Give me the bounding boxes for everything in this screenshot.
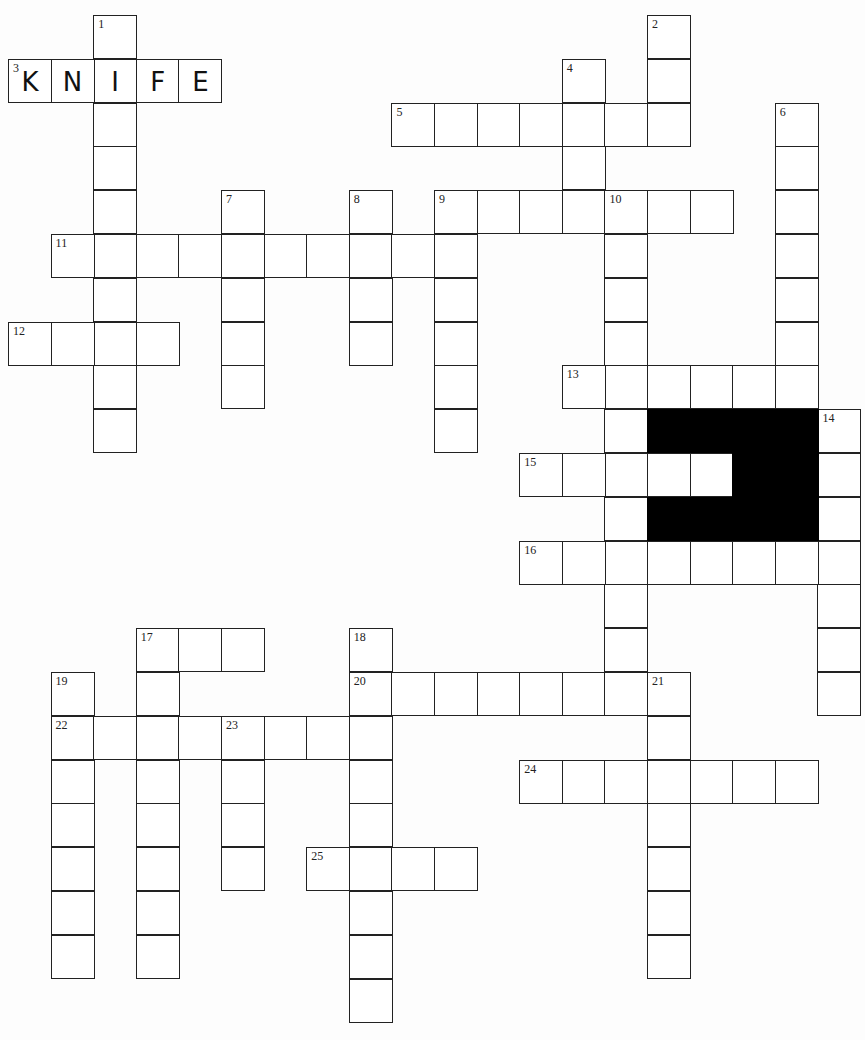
crossword-cell[interactable] [477, 672, 521, 716]
crossword-cell[interactable] [732, 541, 776, 585]
crossword-cell[interactable] [178, 234, 222, 278]
crossword-cell[interactable] [51, 322, 95, 366]
crossword-cell[interactable] [51, 847, 95, 891]
crossword-cell[interactable]: 25 [306, 847, 350, 891]
crossword-cell[interactable] [221, 234, 265, 278]
crossword-cell[interactable] [434, 234, 478, 278]
crossword-cell[interactable] [51, 891, 95, 935]
crossword-cell[interactable] [434, 322, 478, 366]
crossword-cell[interactable] [647, 716, 691, 760]
crossword-cell[interactable]: E [178, 59, 222, 103]
crossword-cell[interactable]: 20 [349, 672, 393, 716]
crossword-cell[interactable] [604, 103, 648, 147]
crossword-cell[interactable] [604, 278, 648, 322]
crossword-cell[interactable] [647, 803, 691, 847]
crossword-cell[interactable] [136, 760, 180, 804]
crossword-cell[interactable] [136, 322, 180, 366]
crossword-cell[interactable]: 4 [562, 59, 606, 103]
crossword-cell[interactable]: 6 [775, 103, 819, 147]
crossword-cell[interactable] [775, 322, 819, 366]
crossword-cell[interactable]: 19 [51, 672, 95, 716]
crossword-cell[interactable]: 13 [562, 365, 606, 409]
crossword-cell[interactable] [264, 716, 308, 760]
crossword-cell[interactable] [93, 278, 137, 322]
crossword-cell[interactable] [690, 453, 734, 497]
crossword-cell[interactable] [221, 278, 265, 322]
crossword-cell[interactable] [647, 891, 691, 935]
crossword-cell[interactable] [349, 979, 393, 1023]
crossword-cell[interactable] [136, 234, 180, 278]
crossword-cell[interactable] [434, 365, 478, 409]
crossword-cell[interactable] [93, 190, 137, 234]
crossword-cell[interactable] [519, 672, 563, 716]
crossword-cell[interactable] [604, 365, 648, 409]
crossword-cell[interactable] [562, 760, 606, 804]
crossword-cell[interactable]: 5 [391, 103, 435, 147]
crossword-cell[interactable]: N [51, 59, 95, 103]
crossword-cell[interactable] [562, 453, 606, 497]
crossword-cell[interactable] [647, 847, 691, 891]
crossword-cell[interactable] [306, 234, 350, 278]
crossword-cell[interactable] [604, 760, 648, 804]
crossword-cell[interactable] [562, 190, 606, 234]
crossword-cell[interactable] [604, 322, 648, 366]
crossword-cell[interactable] [349, 803, 393, 847]
crossword-cell[interactable] [647, 59, 691, 103]
crossword-cell[interactable]: 11 [51, 234, 95, 278]
crossword-cell[interactable] [221, 760, 265, 804]
crossword-cell[interactable] [817, 541, 861, 585]
crossword-cell[interactable] [349, 234, 393, 278]
crossword-cell[interactable] [647, 103, 691, 147]
crossword-cell[interactable] [178, 716, 222, 760]
crossword-cell[interactable] [136, 935, 180, 979]
crossword-cell[interactable]: 8 [349, 190, 393, 234]
crossword-cell[interactable] [434, 278, 478, 322]
crossword-cell[interactable] [51, 935, 95, 979]
crossword-cell[interactable] [817, 672, 861, 716]
crossword-cell[interactable]: 7 [221, 190, 265, 234]
crossword-cell[interactable] [221, 365, 265, 409]
crossword-cell[interactable] [817, 453, 861, 497]
crossword-cell[interactable] [690, 760, 734, 804]
crossword-cell[interactable] [136, 672, 180, 716]
crossword-cell[interactable]: 12 [8, 322, 52, 366]
crossword-cell[interactable] [647, 760, 691, 804]
crossword-cell[interactable]: I [93, 59, 137, 103]
crossword-cell[interactable]: 23 [221, 716, 265, 760]
crossword-cell[interactable] [93, 409, 137, 453]
crossword-cell[interactable] [604, 628, 648, 672]
crossword-cell[interactable] [775, 146, 819, 190]
crossword-cell[interactable] [519, 190, 563, 234]
crossword-cell[interactable] [604, 453, 648, 497]
crossword-cell[interactable]: 1 [93, 15, 137, 59]
crossword-cell[interactable] [604, 409, 648, 453]
crossword-cell[interactable] [221, 322, 265, 366]
crossword-cell[interactable]: 15 [519, 453, 563, 497]
crossword-cell[interactable] [647, 190, 691, 234]
crossword-cell[interactable] [732, 365, 776, 409]
crossword-cell[interactable] [647, 935, 691, 979]
crossword-cell[interactable]: 14 [817, 409, 861, 453]
crossword-cell[interactable] [690, 541, 734, 585]
crossword-cell[interactable] [604, 497, 648, 541]
crossword-cell[interactable] [51, 803, 95, 847]
crossword-cell[interactable]: 22 [51, 716, 95, 760]
crossword-cell[interactable] [775, 541, 819, 585]
crossword-cell[interactable] [349, 760, 393, 804]
crossword-cell[interactable] [817, 497, 861, 541]
crossword-cell[interactable] [136, 803, 180, 847]
crossword-cell[interactable] [690, 365, 734, 409]
crossword-cell[interactable] [136, 847, 180, 891]
crossword-cell[interactable] [562, 541, 606, 585]
crossword-cell[interactable] [349, 716, 393, 760]
crossword-cell[interactable] [775, 234, 819, 278]
crossword-cell[interactable] [647, 453, 691, 497]
crossword-cell[interactable] [221, 847, 265, 891]
crossword-cell[interactable]: 2 [647, 15, 691, 59]
crossword-cell[interactable] [775, 365, 819, 409]
crossword-cell[interactable] [136, 716, 180, 760]
crossword-cell[interactable]: 24 [519, 760, 563, 804]
crossword-cell[interactable] [477, 190, 521, 234]
crossword-cell[interactable] [391, 672, 435, 716]
crossword-cell[interactable] [221, 803, 265, 847]
